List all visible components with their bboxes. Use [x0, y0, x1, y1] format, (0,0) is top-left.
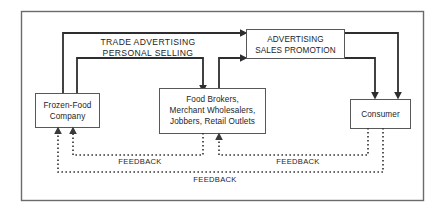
diagram-container: Frozen-Food Company Food Brokers, Mercha… — [0, 0, 445, 218]
box-frozen-food-company-line-2: Company — [50, 112, 87, 121]
flow-label-trade-advertising: TRADE ADVERTISING — [100, 37, 195, 47]
box-frozen-food-company — [36, 94, 100, 128]
feedback-label-bottom: FEEDBACK — [193, 175, 236, 184]
box-advertising-line-1: ADVERTISING — [267, 35, 323, 44]
flow-label-personal-selling: PERSONAL SELLING — [103, 48, 194, 58]
box-intermediaries-line-3: Jobbers, Retail Outlets — [170, 117, 255, 126]
box-frozen-food-company-line-1: Frozen-Food — [44, 101, 92, 110]
feedback-label-left: FEEDBACK — [118, 157, 161, 166]
box-intermediaries-line-2: Merchant Wholesalers, — [170, 106, 256, 115]
feedback-label-right: FEEDBACK — [276, 157, 319, 166]
box-advertising-line-2: SALES PROMOTION — [255, 46, 336, 55]
box-intermediaries-line-1: Food Brokers, — [186, 95, 239, 104]
channel-flow-diagram: Frozen-Food Company Food Brokers, Mercha… — [0, 0, 445, 218]
box-consumer-label: Consumer — [361, 110, 400, 119]
